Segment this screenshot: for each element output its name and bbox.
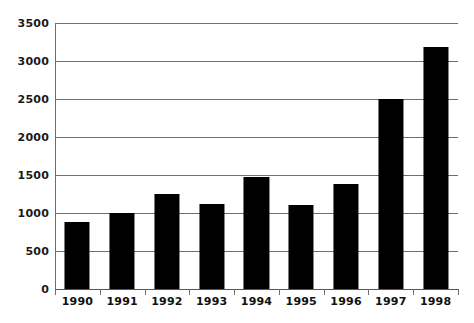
bar-1998[interactable] — [423, 47, 448, 289]
x-tick-1993 — [234, 289, 235, 295]
x-tick-1998 — [458, 289, 459, 295]
y-tick-label-1500: 1500 — [3, 170, 49, 181]
bar-slot-1991 — [100, 23, 145, 289]
bar-slot-1994 — [234, 23, 279, 289]
bar-slot-1990 — [55, 23, 100, 289]
x-tick-1996 — [368, 289, 369, 295]
x-tick-1992 — [189, 289, 190, 295]
y-axis-tick-labels: 0500100015002000250030003500 — [0, 0, 49, 323]
y-tick-label-2000: 2000 — [3, 132, 49, 143]
x-tick-label-1995: 1995 — [279, 296, 324, 307]
x-tick-label-1990: 1990 — [55, 296, 100, 307]
bar-slot-1996 — [324, 23, 369, 289]
bar-1993[interactable] — [199, 204, 224, 289]
bar-1990[interactable] — [65, 222, 90, 289]
x-tick-1995 — [324, 289, 325, 295]
bar-slot-1995 — [279, 23, 324, 289]
x-tick-label-1996: 1996 — [324, 296, 369, 307]
y-tick-label-1000: 1000 — [3, 208, 49, 219]
y-tick-label-3500: 3500 — [3, 18, 49, 29]
bar-1997[interactable] — [378, 99, 403, 289]
bar-slot-1993 — [189, 23, 234, 289]
x-tick-label-1998: 1998 — [413, 296, 458, 307]
y-tick-label-500: 500 — [3, 246, 49, 257]
x-tick-label-1992: 1992 — [145, 296, 190, 307]
bar-1991[interactable] — [110, 213, 135, 289]
bar-1992[interactable] — [154, 194, 179, 289]
bar-1996[interactable] — [334, 184, 359, 289]
x-tick-1991 — [145, 289, 146, 295]
bar-slot-1998 — [413, 23, 458, 289]
y-tick-label-0: 0 — [3, 284, 49, 295]
bar-1995[interactable] — [289, 205, 314, 289]
x-axis-ticks-and-labels: 199019911992199319941995199619971998 — [55, 289, 458, 323]
bar-chart-figure: 0500100015002000250030003500 19901991199… — [0, 0, 474, 323]
y-tick-label-2500: 2500 — [3, 94, 49, 105]
x-tick-label-1994: 1994 — [234, 296, 279, 307]
x-tick-1990 — [100, 289, 101, 295]
x-tick-1994 — [279, 289, 280, 295]
x-tick-1997 — [413, 289, 414, 295]
x-tick-origin — [55, 289, 56, 295]
bar-1994[interactable] — [244, 177, 269, 289]
x-tick-label-1997: 1997 — [368, 296, 413, 307]
x-tick-label-1993: 1993 — [189, 296, 234, 307]
bars-layer — [55, 23, 458, 289]
bar-slot-1992 — [145, 23, 190, 289]
bar-slot-1997 — [368, 23, 413, 289]
x-tick-label-1991: 1991 — [100, 296, 145, 307]
y-tick-label-3000: 3000 — [3, 56, 49, 67]
